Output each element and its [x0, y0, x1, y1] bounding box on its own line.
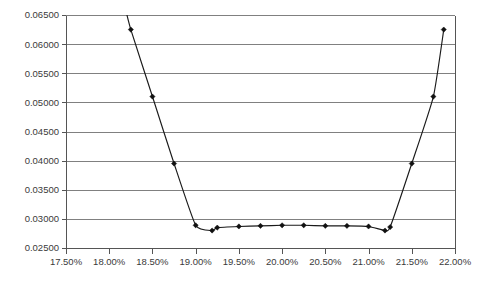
data-point-marker	[366, 224, 371, 229]
data-point-marker	[382, 228, 387, 233]
y-axis-tick-label: 0.03000	[25, 213, 59, 224]
x-axis-tick-label: 20.50%	[309, 256, 342, 267]
x-axis-ticks	[67, 249, 456, 254]
data-point-marker	[209, 228, 214, 233]
y-axis-tick-label: 0.04000	[25, 155, 59, 166]
y-axis-tick-label: 0.05000	[25, 97, 59, 108]
data-point-marker	[236, 224, 241, 229]
x-axis-tick-label: 20.00%	[266, 256, 299, 267]
y-axis-tick-label: 0.06500	[25, 9, 59, 20]
data-point-marker	[150, 94, 155, 99]
data-point-marker	[441, 27, 446, 32]
line-chart: 0.025000.030000.035000.040000.045000.050…	[0, 0, 483, 282]
data-point-marker	[258, 223, 263, 228]
data-point-marker	[431, 94, 436, 99]
data-point-marker	[388, 224, 393, 229]
series-line-1	[125, 6, 444, 231]
x-axis-tick-label: 19.00%	[180, 256, 213, 267]
x-axis-tick-labels: 17.50%18.00%18.50%19.00%19.50%20.00%20.5…	[50, 256, 472, 267]
x-axis-tick-label: 18.50%	[136, 256, 169, 267]
x-axis-tick-label: 17.50%	[50, 256, 83, 267]
x-axis-tick-label: 18.00%	[93, 256, 126, 267]
data-point-marker	[215, 225, 220, 230]
data-series	[125, 6, 444, 231]
x-axis-tick-label: 21.50%	[396, 256, 429, 267]
y-axis-tick-label: 0.05500	[25, 68, 59, 79]
data-point-marker	[301, 223, 306, 228]
chart-container: 0.025000.030000.035000.040000.045000.050…	[0, 0, 483, 282]
x-axis-tick-label: 19.50%	[223, 256, 256, 267]
data-point-marker	[280, 223, 285, 228]
y-axis-tick-label: 0.03500	[25, 184, 59, 195]
y-axis-tick-labels: 0.025000.030000.035000.040000.045000.050…	[25, 9, 59, 253]
data-point-marker	[323, 223, 328, 228]
data-point-marker	[344, 223, 349, 228]
y-axis-tick-label: 0.02500	[25, 242, 59, 253]
gridlines	[66, 16, 455, 220]
x-axis-tick-label: 21.00%	[352, 256, 385, 267]
y-axis-tick-label: 0.04500	[25, 126, 59, 137]
y-axis-tick-label: 0.06000	[25, 39, 59, 50]
x-axis-tick-label: 22.00%	[439, 256, 472, 267]
data-point-marker	[128, 27, 133, 32]
